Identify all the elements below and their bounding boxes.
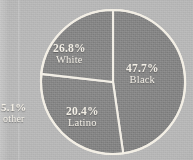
- pie-label-latino-name: Latino: [66, 117, 99, 128]
- pie-label-other-name: other: [1, 114, 27, 125]
- pie-label-latino: 20.4% Latino: [66, 105, 99, 129]
- pie-label-black-name: Black: [126, 74, 159, 85]
- pie-chart-screenshot: 47.7% Black 26.8% White 20.4% Latino 5.1…: [0, 0, 193, 160]
- pie-label-other: 5.1% other: [1, 102, 27, 125]
- pie-chart-graphic: [0, 0, 193, 160]
- pie-label-white-name: White: [53, 54, 86, 65]
- pie-label-black: 47.7% Black: [126, 62, 159, 86]
- pie-label-white: 26.8% White: [53, 42, 86, 66]
- pie-label-white-value: 26.8%: [53, 42, 86, 54]
- pie-label-black-value: 47.7%: [126, 62, 159, 74]
- pie-label-latino-value: 20.4%: [66, 105, 99, 117]
